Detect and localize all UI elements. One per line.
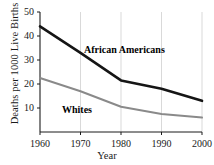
x-tick-label: 1980 xyxy=(101,138,141,149)
x-tick-label: 1960 xyxy=(20,138,60,149)
series-label-african-americans: African Americans xyxy=(84,44,165,55)
x-tick-label: 1990 xyxy=(142,138,182,149)
series-label-whites: Whites xyxy=(62,104,92,115)
x-tick-label: 1970 xyxy=(61,138,101,149)
line-chart: Deaths per 1000 Live Births 1020304050 1… xyxy=(0,0,214,165)
x-axis-title: Year xyxy=(0,150,214,161)
y-axis-title: Deaths per 1000 Live Births xyxy=(9,2,20,126)
x-tick-label: 2000 xyxy=(182,138,214,149)
